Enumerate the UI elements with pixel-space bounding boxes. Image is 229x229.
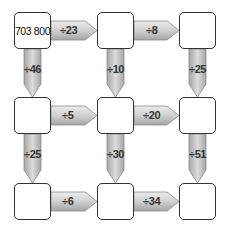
arrow-right-r3-2: ÷34 [134, 191, 180, 212]
operation-label: ÷23 [60, 20, 77, 41]
grid-cell-r1c2[interactable] [97, 12, 134, 49]
operation-label: ÷46 [23, 63, 42, 75]
operation-label: ÷30 [106, 148, 125, 160]
grid-cell-r3c3[interactable] [179, 183, 216, 220]
arrow-down-c1-2: ÷25 [23, 134, 42, 184]
operation-label: ÷34 [143, 191, 160, 212]
operation-label: ÷8 [146, 20, 158, 41]
arrow-right-r2-2: ÷20 [134, 105, 180, 126]
grid-cell-r2c3[interactable] [179, 97, 216, 134]
arrow-right-r1-1: ÷23 [51, 20, 98, 41]
arrow-right-icon [51, 191, 98, 212]
operation-label: ÷25 [23, 148, 42, 160]
operation-label: ÷5 [62, 105, 74, 126]
arrow-right-r2-1: ÷5 [51, 105, 98, 126]
arrow-down-c3-1: ÷25 [188, 49, 207, 98]
grid-cell-r2c1[interactable] [14, 97, 51, 134]
arrow-down-c1-1: ÷46 [23, 49, 42, 98]
arrow-right-icon [51, 105, 98, 126]
arrow-down-c3-2: ÷51 [188, 134, 207, 184]
grid-cell-r3c2[interactable] [97, 183, 134, 220]
grid-cell-r1c3[interactable] [179, 12, 216, 49]
grid-cell-r2c2[interactable] [97, 97, 134, 134]
operation-label: ÷6 [62, 191, 74, 212]
operation-label: ÷10 [106, 63, 125, 75]
operation-label: ÷25 [188, 63, 207, 75]
grid-cell-r3c1[interactable] [14, 183, 51, 220]
operation-label: ÷20 [143, 105, 160, 126]
grid-cell-r1c1: 703 800 [14, 12, 51, 49]
arrow-down-c2-1: ÷10 [106, 49, 125, 98]
operation-label: ÷51 [188, 148, 207, 160]
arrow-right-r1-2: ÷8 [134, 20, 180, 41]
arrow-right-r3-1: ÷6 [51, 191, 98, 212]
arrow-down-c2-2: ÷30 [106, 134, 125, 184]
